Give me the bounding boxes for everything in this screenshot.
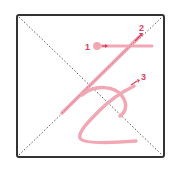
label-3: 3: [141, 72, 146, 82]
label-2: 2: [139, 23, 144, 33]
diagram-canvas: 1 2 3: [0, 0, 176, 173]
label-1: 1: [85, 42, 90, 52]
